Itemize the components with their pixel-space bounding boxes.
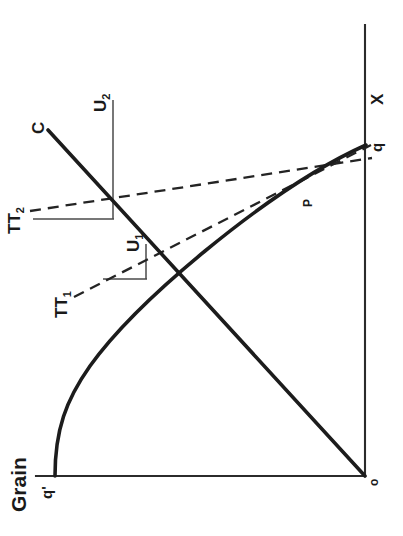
terms-of-trade-1-label: TT1 [52, 291, 73, 318]
utility-2-label: U2 [91, 94, 112, 112]
q-label-group: q [368, 143, 385, 152]
c-label-group: C [29, 122, 48, 134]
x-axis-label-group: X [368, 93, 387, 105]
production-point-label: P [301, 199, 315, 207]
x-axis-label: X [368, 93, 387, 105]
grain-axis-label-group: Grain [7, 457, 30, 512]
consumption-expansion-ray [48, 130, 365, 476]
p-label-group: P [301, 199, 315, 207]
q-prime-label-group: q' [38, 486, 55, 499]
tt2-label-group: TT2 [5, 207, 26, 234]
origin-label-group: o [367, 479, 381, 486]
origin-label: o [367, 479, 381, 486]
diagram-canvas: Grain q' o X q C P U1 U2 TT1 TT2 [0, 0, 403, 536]
q-prime-label: q' [38, 486, 55, 499]
utility-1-label: U1 [124, 234, 145, 252]
terms-of-trade-2-label: TT2 [5, 207, 26, 234]
tt1-dashed-line [74, 145, 371, 297]
grain-axis-label: Grain [7, 457, 30, 512]
trade-diagram-figure: Grain q' o X q C P U1 U2 TT1 TT2 [0, 0, 403, 536]
u1-label-group: U1 [124, 234, 145, 252]
u2-label-group: U2 [91, 94, 112, 112]
consumption-point-label: C [29, 122, 48, 134]
tt1-label-group: TT1 [52, 291, 73, 318]
q-label: q [368, 143, 385, 152]
